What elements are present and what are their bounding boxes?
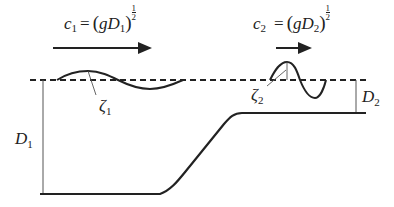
- c2-exponent: 12: [326, 4, 331, 21]
- d1-subscript: 1: [27, 138, 33, 150]
- zeta2-pointer-line: [267, 70, 286, 86]
- arrow-c1-icon: [53, 42, 152, 54]
- d1-symbol: D: [15, 129, 27, 148]
- c2-equation: c2=(gD2)12: [253, 13, 330, 34]
- d2-label: D2: [362, 88, 380, 108]
- c1-depth-symbol: D: [107, 14, 119, 33]
- zeta1-subscript: 1: [106, 105, 112, 117]
- c2-exponent-denominator: 2: [326, 13, 331, 21]
- d1-label: D1: [15, 130, 33, 150]
- d2-symbol: D: [362, 87, 374, 106]
- c1-subscript: 1: [72, 22, 78, 34]
- zeta1-label: ζ1: [99, 97, 111, 117]
- zeta2-label: ζ2: [251, 86, 263, 106]
- arrow-c2-icon: [276, 42, 312, 54]
- diagram-graphics: [0, 0, 394, 207]
- c1-exponent-denominator: 2: [132, 13, 137, 21]
- c1-equals: =: [80, 14, 90, 33]
- c2-depth-symbol: D: [301, 14, 313, 33]
- wave-shoaling-diagram: c1=(gD1)12 c2=(gD2)12 ζ1 ζ2 D1 D2: [0, 0, 394, 207]
- wave-2-profile: [270, 62, 326, 98]
- zeta1-pointer-line: [88, 71, 96, 95]
- seabed-profile: [40, 113, 366, 194]
- zeta2-symbol: ζ: [251, 85, 258, 104]
- c2-subscript: 2: [261, 22, 267, 34]
- c1-equation: c1=(gD1)12: [64, 13, 136, 34]
- zeta1-symbol: ζ: [99, 96, 106, 115]
- c1-exponent: 12: [132, 4, 137, 21]
- c2-symbol: c: [253, 14, 261, 33]
- zeta2-subscript: 2: [258, 94, 264, 106]
- c2-equals: =: [274, 14, 284, 33]
- d2-subscript: 2: [374, 96, 380, 108]
- c1-symbol: c: [64, 14, 72, 33]
